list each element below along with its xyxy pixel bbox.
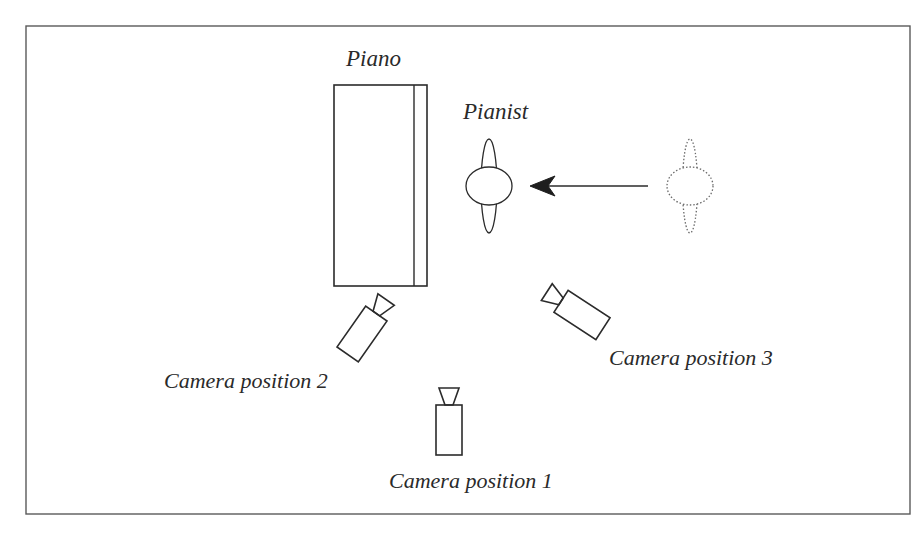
pianist-previous-figure-icon [667,139,713,233]
camera-3-label: Camera position 3 [609,347,773,369]
pianist-label: Pianist [463,100,528,123]
movement-arrow-icon [530,176,648,196]
camera-1-icon [436,388,462,455]
diagram-svg [0,0,924,539]
camera-2-label: Camera position 2 [164,370,328,392]
pianist-figure-icon [466,139,512,233]
camera-3-icon [540,281,610,339]
piano-label: Piano [346,47,401,70]
camera-1-label: Camera position 1 [389,470,553,492]
diagram-canvas: Piano Pianist Camera position 2 Camera p… [0,0,924,539]
camera-2-icon [337,292,397,362]
piano-shape [334,85,427,286]
